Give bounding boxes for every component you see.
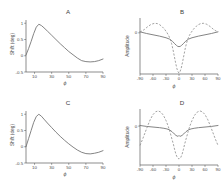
panel-d: D -90-60-3003060900 Amplitude ϕ: [112, 91, 224, 182]
panel-d-xlabel: ϕ: [173, 174, 176, 180]
panel-a-series-shift: [26, 24, 103, 62]
panel-c-tick-labels: 1030507090-0.500.51: [16, 112, 106, 170]
panel-b-series-amplitude-solid: [140, 32, 218, 47]
panel-a-plot: A 1030507090-0.500.51 Shift (deg) ϕ: [0, 0, 112, 91]
panel-b-xtick-label: -90: [137, 76, 144, 81]
panel-d-series-amplitude-solid: [140, 125, 218, 136]
panel-d-xtick-label: -90: [137, 167, 144, 172]
panel-d-ylabel: Amplitude: [125, 126, 130, 148]
panel-a-ytick-label: 0: [21, 53, 24, 58]
panel-a-xtick-label: 70: [83, 74, 88, 79]
panel-a-ylabel: Shift (deg): [10, 33, 15, 56]
panel-a-ytick-label: -0.5: [16, 70, 24, 75]
panel-c-axes: [24, 111, 103, 165]
panel-c-xtick-label: 70: [83, 165, 88, 170]
panel-b-plot: B -90-60-3003060900 Amplitude ϕ: [112, 0, 224, 91]
panel-a-letter: A: [66, 8, 71, 15]
panel-c-xtick-label: 90: [101, 165, 106, 170]
panel-d-curves: [140, 111, 218, 159]
panel-d-xtick-label: 0: [178, 167, 181, 172]
panel-b-xtick-label: 30: [190, 76, 195, 81]
panel-c-ytick-label: 0.5: [17, 128, 24, 133]
panel-d-xtick-label: 90: [216, 167, 221, 172]
panel-a-xtick-label: 50: [66, 74, 71, 79]
panel-b-xtick-label: 0: [178, 76, 181, 81]
panel-c-xlabel: ϕ: [64, 171, 67, 177]
panel-a-tick-labels: 1030507090-0.500.51: [16, 21, 106, 79]
panel-c-ylabel: Shift (deg): [10, 124, 15, 147]
panel-a-curves: [26, 24, 103, 62]
panel-c-ytick-label: -0.5: [16, 161, 24, 166]
panel-b-xtick-label: -30: [163, 76, 170, 81]
panel-a: A 1030507090-0.500.51 Shift (deg) ϕ: [0, 0, 112, 91]
panel-d-plot: D -90-60-3003060900 Amplitude ϕ: [112, 91, 224, 182]
panel-a-xtick-label: 10: [32, 74, 37, 79]
panel-a-xtick-label: 30: [49, 74, 54, 79]
panel-b-letter: B: [180, 8, 184, 15]
panel-d-xtick-label: -60: [150, 167, 157, 172]
panel-c-curves: [26, 114, 103, 154]
panel-c-xtick-label: 50: [66, 165, 71, 170]
panel-b-ylabel: Amplitude: [125, 35, 130, 57]
panel-b-xtick-label: 90: [216, 76, 221, 81]
panel-c-ytick-label: 1: [21, 112, 24, 117]
panel-b-curves: [140, 23, 218, 73]
panel-b-axes: [138, 18, 218, 76]
panel-c-plot: C 1030507090-0.500.51 Shift (deg) ϕ: [0, 91, 112, 182]
panel-c-xtick-label: 30: [49, 165, 54, 170]
panel-b: B -90-60-3003060900 Amplitude ϕ: [112, 0, 224, 91]
panel-a-ytick-label: 0.5: [17, 37, 24, 42]
panel-c: C 1030507090-0.500.51 Shift (deg) ϕ: [0, 91, 112, 182]
panel-d-letter: D: [180, 99, 185, 106]
panel-b-series-amplitude-dashed: [140, 23, 218, 73]
panel-a-ytick-label: 1: [21, 21, 24, 26]
panel-a-xlabel: ϕ: [64, 80, 67, 86]
panel-c-series-shift: [26, 114, 103, 154]
panel-c-letter: C: [66, 99, 71, 106]
panel-d-xtick-label: 30: [190, 167, 195, 172]
panel-b-tick-labels: -90-60-3003060900: [135, 30, 221, 81]
panel-b-ytick-label: 0: [135, 30, 138, 35]
panel-d-ytick-label: 0: [135, 124, 138, 129]
panel-c-xtick-label: 10: [32, 165, 37, 170]
panel-d-series-amplitude-dashed: [140, 111, 218, 159]
panel-b-xlabel: ϕ: [173, 83, 176, 89]
panel-c-ytick-label: 0: [21, 144, 24, 149]
panel-d-xtick-label: -30: [163, 167, 170, 172]
figure-container: A 1030507090-0.500.51 Shift (deg) ϕ B -9…: [0, 0, 224, 182]
panel-b-xtick-label: 60: [203, 76, 208, 81]
panel-b-xtick-label: -60: [150, 76, 157, 81]
panel-d-xtick-label: 60: [203, 167, 208, 172]
panel-a-xtick-label: 90: [101, 74, 106, 79]
